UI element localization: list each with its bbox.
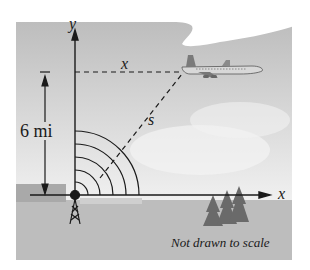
x-axis-label: x — [278, 186, 285, 202]
sky-background — [16, 18, 300, 200]
y-axis-label: y — [69, 16, 76, 32]
horizontal-distance-label: x — [121, 56, 128, 72]
not-to-scale-note: Not drawn to scale — [171, 236, 270, 249]
building-block — [16, 184, 66, 202]
altitude-label: 6 mi — [20, 122, 53, 140]
slant-distance-label: s — [148, 112, 154, 128]
